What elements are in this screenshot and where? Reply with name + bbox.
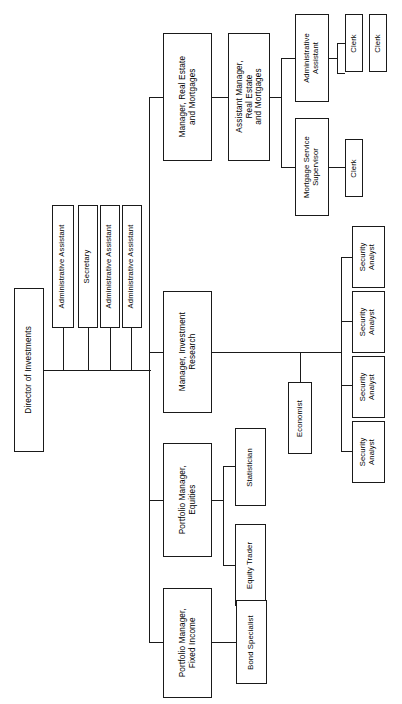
connector-to-clerk1: [337, 43, 345, 44]
node-label: Security Analyst: [360, 373, 378, 402]
connector-to-statistician: [223, 466, 235, 467]
node-equity-trader[interactable]: Equity Trader: [235, 524, 266, 606]
connector-branch-equities: [149, 500, 163, 501]
node-label: Assistant Manager, Real Estate and Mortg…: [234, 61, 263, 133]
node-label: Equity Trader: [246, 541, 255, 588]
node-assistant-manager-real-estate-and-mortgages[interactable]: Assistant Manager, Real Estate and Mortg…: [228, 33, 270, 161]
connector-eq-bus: [223, 466, 224, 566]
node-label: Clerk: [374, 34, 383, 52]
node-label: Statistician: [246, 448, 255, 487]
node-staff-administrative-assistant-2[interactable]: Administrative Assistant: [100, 205, 120, 328]
node-label: Portfolio Manager, Fixed Income: [178, 608, 197, 677]
connector-staff4-stub: [131, 328, 132, 371]
connector-branch-investment-research: [149, 352, 163, 353]
connector-to-clerk3: [329, 167, 345, 168]
node-clerk-2[interactable]: Clerk: [369, 14, 387, 72]
node-label: Manager, Investment Research: [178, 312, 197, 391]
node-label: Clerk: [350, 159, 359, 177]
connector-to-sa4: [341, 451, 352, 452]
connector-staff-bus: [63, 370, 151, 371]
node-label: Security Analyst: [360, 243, 378, 272]
node-label: Director of Investments: [24, 326, 34, 414]
connector-ir-out: [212, 352, 342, 353]
node-label: Mortgage Service Supervisor: [303, 136, 321, 198]
node-label: Administrative Assistant: [59, 225, 68, 309]
connector-to-equity-trader: [223, 565, 235, 566]
node-clerk-3[interactable]: Clerk: [345, 139, 363, 197]
node-label: Manager, Real Estate and Mortgages: [178, 56, 197, 138]
node-label: Security Analyst: [360, 308, 378, 337]
node-staff-secretary[interactable]: Secretary: [78, 205, 98, 328]
connector-economist-drop: [300, 352, 301, 382]
node-label: Portfolio Manager, Equities: [178, 465, 197, 534]
node-label: Bond Specialist: [247, 615, 256, 670]
org-chart: Director of Investments Administrative A…: [0, 0, 402, 704]
node-staff-administrative-assistant-1[interactable]: Administrative Assistant: [52, 205, 74, 328]
node-portfolio-manager-fixed-income[interactable]: Portfolio Manager, Fixed Income: [163, 588, 212, 698]
connector-to-sa3: [341, 385, 352, 386]
connector-to-mortgage-sup: [281, 167, 295, 168]
connector-to-bond-specialist: [212, 642, 236, 643]
node-staff-administrative-assistant-3[interactable]: Administrative Assistant: [122, 205, 142, 328]
node-clerk-1[interactable]: Clerk: [345, 14, 363, 72]
node-portfolio-manager-equities[interactable]: Portfolio Manager, Equities: [163, 443, 212, 557]
node-label: Administrative Assistant: [128, 225, 137, 309]
node-manager-real-estate-and-mortgages[interactable]: Manager, Real Estate and Mortgages: [163, 33, 212, 161]
connector-admin-re-bus: [337, 43, 338, 74]
connector-asst-re-bus: [281, 58, 282, 168]
node-label: Clerk: [350, 34, 359, 52]
node-director-of-investments[interactable]: Director of Investments: [14, 288, 44, 452]
node-security-analyst-1[interactable]: Security Analyst: [352, 226, 385, 288]
node-label: Secretary: [84, 250, 93, 284]
connector-staff3-stub: [110, 328, 111, 371]
node-mortgage-service-supervisor[interactable]: Mortgage Service Supervisor: [295, 118, 329, 216]
node-security-analyst-4[interactable]: Security Analyst: [352, 421, 385, 483]
connector-mgr-re-to-asst: [212, 97, 228, 98]
connector-security-analyst-bus: [341, 257, 342, 452]
node-manager-investment-research[interactable]: Manager, Investment Research: [163, 291, 212, 413]
node-label: Security Analyst: [360, 438, 378, 467]
connector-to-sa1: [341, 257, 352, 258]
connector-staff1-stub: [63, 328, 64, 371]
node-label: Administrative Assistant: [106, 225, 115, 309]
connector-branch-fixed-income: [149, 642, 163, 643]
node-economist[interactable]: Economist: [288, 382, 312, 454]
node-administrative-assistant-real-estate[interactable]: Administrative Assistant: [295, 14, 329, 102]
connector-to-admin-re: [281, 58, 295, 59]
node-statistician[interactable]: Statistician: [235, 428, 266, 506]
connector-to-sa2: [341, 321, 352, 322]
node-security-analyst-2[interactable]: Security Analyst: [352, 291, 385, 353]
node-label: Administrative Assistant: [303, 33, 321, 83]
connector-staff2-stub: [88, 328, 89, 371]
node-security-analyst-3[interactable]: Security Analyst: [352, 356, 385, 418]
connector-to-clerk2: [337, 73, 345, 74]
node-label: Economist: [296, 400, 305, 437]
connector-branch-real-estate: [149, 97, 163, 98]
node-bond-specialist[interactable]: Bond Specialist: [236, 600, 267, 684]
